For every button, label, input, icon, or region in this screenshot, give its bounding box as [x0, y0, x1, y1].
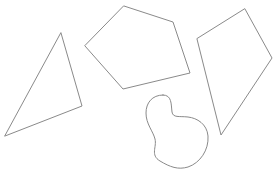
- shape-canvas-container: [0, 0, 279, 179]
- shape-canvas: [0, 0, 279, 179]
- canvas-background: [0, 0, 279, 179]
